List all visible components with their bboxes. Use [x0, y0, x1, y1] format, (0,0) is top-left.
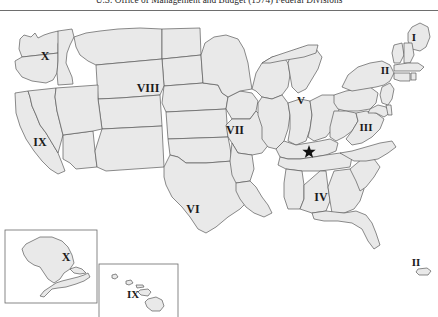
- state-oregon: [15, 53, 58, 83]
- region-label-v: V: [297, 94, 305, 106]
- state-new-jersey: [380, 83, 394, 105]
- puerto-rico-region-label: II: [412, 256, 421, 268]
- map-canvas: X IX X IX VIII VII VI V IV III: [0, 11, 438, 317]
- state-new-mexico: [95, 126, 164, 171]
- state-louisiana: [236, 181, 272, 217]
- hawaii-region-label: IX: [127, 288, 139, 300]
- region-label-ix: IX: [33, 135, 47, 149]
- region-label-i: I: [412, 31, 416, 43]
- region-iv-states: [276, 139, 396, 249]
- region-label-x: X: [41, 49, 50, 63]
- state-nebraska: [162, 83, 228, 112]
- region-label-vii: VII: [226, 123, 244, 137]
- state-north-carolina: [340, 141, 396, 161]
- puerto-rico-island: [416, 268, 431, 275]
- state-new-hampshire: [404, 43, 414, 63]
- state-utah: [55, 85, 102, 135]
- state-rhode-island: [411, 73, 416, 80]
- state-colorado: [98, 95, 162, 129]
- alaska-inset: X: [5, 230, 97, 303]
- alaska-region-label: X: [62, 250, 71, 264]
- state-mississippi: [284, 169, 304, 209]
- state-kansas: [166, 109, 228, 139]
- state-massachusetts: [394, 63, 424, 71]
- state-idaho: [57, 29, 74, 85]
- state-north-dakota: [162, 28, 201, 59]
- state-south-dakota: [162, 55, 203, 86]
- state-vermont: [392, 43, 404, 63]
- state-arizona: [63, 131, 97, 169]
- state-montana: [74, 28, 162, 65]
- state-washington: [19, 31, 60, 57]
- state-connecticut: [394, 73, 410, 81]
- state-puerto-rico: [416, 268, 431, 275]
- region-label-vi: VI: [186, 202, 200, 216]
- state-indiana: [288, 99, 312, 145]
- hawaii-inset: IX: [99, 264, 178, 317]
- state-florida: [312, 211, 380, 249]
- region-label-iv: IV: [314, 190, 328, 204]
- region-label-ii: II: [381, 64, 390, 76]
- figure-page: U.S. Office of Management and Budget (19…: [0, 0, 438, 317]
- figure-title: U.S. Office of Management and Budget (19…: [0, 0, 438, 5]
- region-label-viii: VIII: [137, 81, 160, 95]
- region-label-iii: III: [360, 121, 373, 133]
